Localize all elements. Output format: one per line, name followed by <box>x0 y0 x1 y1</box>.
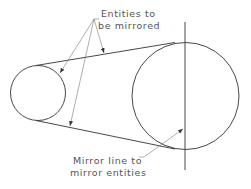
mirror-diagram: Entities to be mirrored Mirror line to m… <box>0 0 251 189</box>
upper-tangent-line <box>36 43 175 66</box>
mirror-label-line1: Mirror line to <box>73 155 142 166</box>
lower-tangent-line <box>36 121 175 150</box>
diagram-svg: Entities to be mirrored Mirror line to m… <box>0 0 251 189</box>
entities-label-line1: Entities to <box>101 8 156 19</box>
entities-label-line2: be mirrored <box>98 20 160 31</box>
mirror-label-line2: mirror entities <box>70 167 146 178</box>
entities-leaders <box>60 19 104 126</box>
large-circle <box>132 43 239 150</box>
small-circle <box>11 66 66 121</box>
